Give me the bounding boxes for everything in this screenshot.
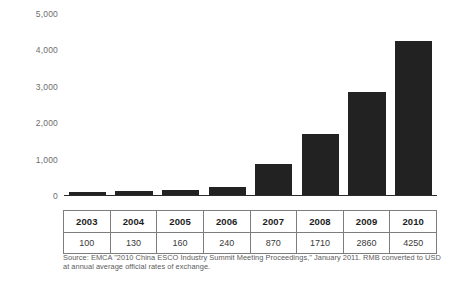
- table-header-cell-2007: 2007: [250, 211, 297, 233]
- table-header-cell-2010: 2010: [390, 211, 437, 233]
- table-value-cell-2009: 2860: [343, 233, 390, 254]
- bar-2010: [395, 41, 432, 196]
- source-note: Source: EMCA "2010 China ESCO Industry S…: [63, 253, 441, 272]
- y-tick-label-3000: 3,000: [0, 82, 58, 92]
- chart-figure: 5,000 4,000 3,000 2,000 1,000 0 20032004…: [0, 0, 453, 285]
- bar-2009: [348, 92, 385, 196]
- table-header-cell-2006: 2006: [203, 211, 250, 233]
- y-tick-label-4000: 4,000: [0, 45, 58, 55]
- data-table: 20032004200520062007200820092010 1001301…: [63, 210, 437, 254]
- table-value-cell-2006: 240: [203, 233, 250, 254]
- y-axis: 5,000 4,000 3,000 2,000 1,000 0: [0, 0, 58, 210]
- table-header-row: 20032004200520062007200820092010: [64, 211, 437, 233]
- table-header-cell-2005: 2005: [157, 211, 204, 233]
- table-value-cell-2007: 870: [250, 233, 297, 254]
- y-tick-label-1000: 1,000: [0, 155, 58, 165]
- plot-area: [64, 14, 437, 196]
- table-header-cell-2008: 2008: [297, 211, 344, 233]
- table-header-cell-2009: 2009: [343, 211, 390, 233]
- x-axis-line: [64, 195, 437, 196]
- table-value-cell-2008: 1710: [297, 233, 344, 254]
- bar-2007: [255, 164, 292, 196]
- table-header-cell-2004: 2004: [110, 211, 157, 233]
- table-header-cell-2003: 2003: [64, 211, 111, 233]
- y-tick-label-2000: 2,000: [0, 118, 58, 128]
- table-value-cell-2010: 4250: [390, 233, 437, 254]
- table-value-row: 100130160240870171028604250: [64, 233, 437, 254]
- y-tick-label-0: 0: [0, 191, 58, 201]
- bar-2008: [302, 134, 339, 196]
- table-value-cell-2004: 130: [110, 233, 157, 254]
- table-value-cell-2003: 100: [64, 233, 111, 254]
- table-value-cell-2005: 160: [157, 233, 204, 254]
- y-tick-label-5000: 5,000: [0, 9, 58, 19]
